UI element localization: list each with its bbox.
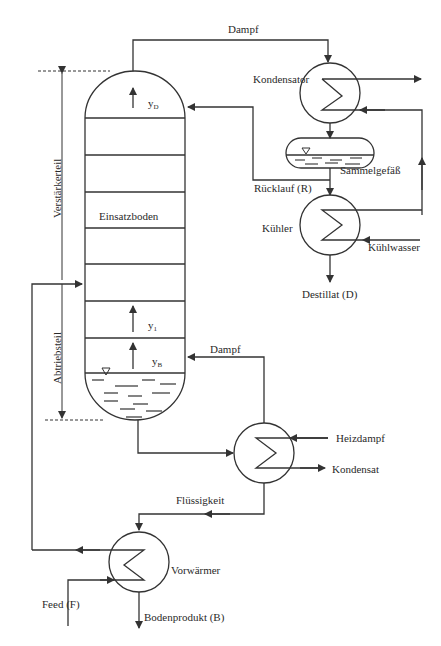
liquid-level-icon [102, 368, 110, 375]
collector-label: Sammelgefäß [340, 165, 400, 176]
heating-steam-label: Heizdampf [336, 433, 385, 444]
collector-level-icon [302, 148, 310, 154]
condenser-label: Kondensator [253, 74, 309, 85]
top-vapor-line [133, 40, 328, 71]
stripping-section-label: Abtriebsteil [52, 332, 63, 384]
distillation-column [85, 71, 185, 420]
cooler-coil [322, 210, 422, 240]
preheater [109, 532, 169, 592]
preheater-coil [32, 550, 144, 626]
condensate-label: Kondensat [332, 464, 379, 475]
liquid-line [139, 483, 264, 530]
condenser [300, 63, 360, 123]
top-vapor-label: Dampf [228, 24, 259, 35]
reboiler-vapor-label: Dampf [210, 344, 241, 355]
feed-line [32, 284, 82, 550]
vapor-label-bottom: yB [152, 356, 162, 369]
cooling-water-label: Kühlwasser [368, 242, 420, 253]
liquid-label: Flüssigkeit [176, 495, 224, 506]
feed-tray-label: Einsatzboden [99, 211, 158, 222]
reboiler-vapor-line [188, 357, 264, 423]
reflux-label: Rücklauf (R) [254, 183, 312, 194]
enriching-section-label: Verstärkerteil [52, 159, 63, 218]
vapor-label-top: yD [148, 98, 159, 111]
cooler-label: Kühler [262, 223, 293, 234]
feed-label: Feed (F) [42, 599, 80, 610]
sump-to-reboiler-line [138, 420, 233, 453]
vapor-label-tray1: y1 [148, 320, 157, 333]
dimension-lines [38, 71, 110, 420]
cooler [300, 195, 360, 255]
bottoms-label: Bodenprodukt (B) [144, 612, 224, 623]
distillation-diagram [0, 0, 441, 646]
preheater-label: Vorwärmer [171, 565, 220, 576]
distillate-label: Destillat (D) [302, 289, 357, 300]
reflux-line [188, 107, 330, 180]
condenser-coil [322, 79, 385, 110]
reboiler [234, 423, 294, 483]
